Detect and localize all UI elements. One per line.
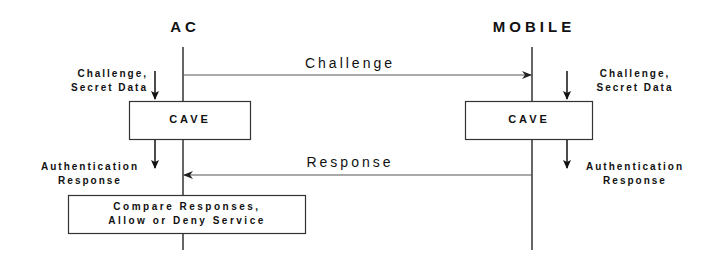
ac-output-label: Authentication Response [30, 160, 150, 188]
compare-label-line1: Compare Responses, [68, 200, 306, 214]
mobile-output-label-line2: Response [570, 174, 700, 188]
ac-input-label-line2: Secret Data [44, 81, 148, 95]
ac-cave-label: CAVE [129, 113, 251, 125]
mobile-input-label-line2: Secret Data [580, 81, 690, 95]
response-message-label: Response [295, 154, 405, 170]
compare-label-line2: Allow or Deny Service [68, 214, 306, 228]
mobile-entity-label: MOBILE [482, 18, 586, 35]
mobile-input-label-line1: Challenge, [580, 67, 690, 81]
ac-input-label-line1: Challenge, [44, 67, 148, 81]
ac-output-label-line1: Authentication [30, 160, 150, 174]
ac-entity-label: AC [163, 18, 207, 35]
mobile-cave-label: CAVE [465, 113, 593, 125]
mobile-input-label: Challenge, Secret Data [580, 67, 690, 95]
mobile-output-label-line1: Authentication [570, 160, 700, 174]
mobile-output-label: Authentication Response [570, 160, 700, 188]
challenge-message-label: Challenge [290, 55, 410, 71]
ac-output-label-line2: Response [30, 174, 150, 188]
ac-input-label: Challenge, Secret Data [44, 67, 148, 95]
compare-label: Compare Responses, Allow or Deny Service [68, 200, 306, 228]
